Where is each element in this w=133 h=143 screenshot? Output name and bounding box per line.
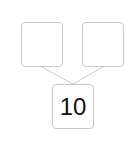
part-left-box[interactable] (21, 22, 63, 67)
part-right-box[interactable] (82, 22, 124, 67)
right-connector (73, 67, 103, 84)
left-connector (42, 67, 73, 84)
whole-box: 10 (52, 84, 94, 129)
